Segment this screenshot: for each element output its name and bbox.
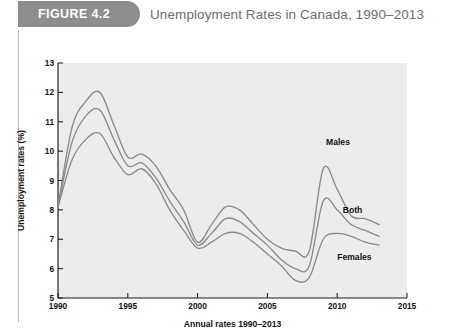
x-tick-label: 2000 <box>188 301 207 311</box>
plot-background <box>58 63 407 298</box>
series-label-females: Females <box>337 252 372 262</box>
x-tick-label: 2010 <box>328 301 347 311</box>
figure-title: Unemployment Rates in Canada, 1990–2013 <box>150 0 424 28</box>
series-label-males: Males <box>326 137 350 147</box>
series-label-both: Both <box>343 205 363 215</box>
y-axis-title: Unemployment rates (%) <box>16 130 26 231</box>
y-tick-label: 9 <box>49 176 54 186</box>
y-tick-label: 13 <box>45 58 55 68</box>
x-tick-label: 2005 <box>258 301 277 311</box>
x-tick-label: 1990 <box>49 301 68 311</box>
y-tick-label: 10 <box>45 146 55 156</box>
chart-region: 5678910111213 199019952000200520102015 M… <box>0 30 470 330</box>
x-axis-title: Annual rates 1990–2013 <box>184 319 282 329</box>
y-tick-label: 11 <box>45 117 54 127</box>
y-tick-label: 6 <box>49 264 54 274</box>
y-tick-label: 7 <box>49 234 54 244</box>
figure-header: FIGURE 4.2 Unemployment Rates in Canada,… <box>0 0 470 30</box>
x-tick-label: 2015 <box>398 301 417 311</box>
figure-number-label: FIGURE 4.2 <box>38 7 110 21</box>
x-tick-label: 1995 <box>119 301 138 311</box>
y-tick-label: 12 <box>45 87 55 97</box>
y-tick-label: 8 <box>49 205 54 215</box>
unemployment-line-chart: 5678910111213 199019952000200520102015 M… <box>0 30 470 330</box>
figure-number-tab: FIGURE 4.2 <box>18 1 140 27</box>
